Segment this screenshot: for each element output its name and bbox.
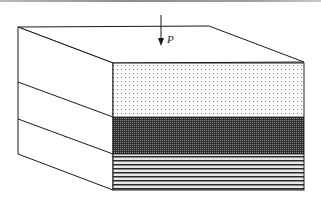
layered-block-diagram: [0, 0, 321, 207]
bottom-layer-front: [113, 154, 304, 190]
middle-layer-front: [113, 117, 304, 154]
load-label: P: [167, 34, 174, 45]
top-layer-front: [113, 63, 304, 117]
